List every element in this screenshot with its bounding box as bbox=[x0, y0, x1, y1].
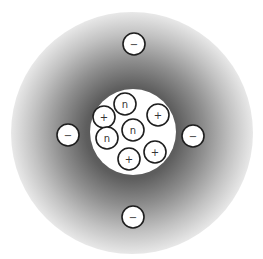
electron: − bbox=[57, 124, 79, 146]
proton-symbol: + bbox=[125, 154, 133, 165]
neutron-symbol: n bbox=[104, 133, 110, 144]
neutron-symbol: n bbox=[122, 99, 128, 110]
electron-symbol: − bbox=[130, 39, 138, 50]
proton: + bbox=[144, 141, 166, 163]
electron: − bbox=[182, 125, 204, 147]
proton-symbol: + bbox=[151, 147, 159, 158]
electron: − bbox=[122, 206, 144, 228]
electron-symbol: − bbox=[189, 131, 197, 142]
electron-symbol: − bbox=[64, 130, 72, 141]
proton-symbol: + bbox=[100, 112, 108, 123]
proton-symbol: + bbox=[154, 110, 162, 121]
proton: + bbox=[118, 148, 140, 170]
proton: + bbox=[147, 104, 169, 126]
neutron: n bbox=[96, 127, 118, 149]
proton: + bbox=[93, 106, 115, 128]
electron: − bbox=[123, 33, 145, 55]
electron-symbol: − bbox=[129, 212, 137, 223]
atom-diagram: +n+nn++ −−−− bbox=[0, 0, 263, 259]
neutron: n bbox=[122, 119, 144, 141]
neutron: n bbox=[114, 93, 136, 115]
neutron-symbol: n bbox=[130, 125, 136, 136]
